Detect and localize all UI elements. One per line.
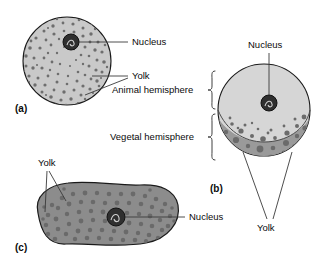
panel-c-tag: (c) (15, 242, 27, 253)
animal-hemisphere-label: Animal hemisphere (112, 84, 193, 95)
panel-b-tag: (b) (210, 183, 223, 194)
vegetal-hemisphere-brace (208, 114, 215, 160)
animal-hemisphere-brace (208, 71, 215, 109)
nucleus-label-c: Nucleus (189, 211, 224, 222)
nucleus-c (107, 208, 125, 226)
vegetal-hemisphere-label: Vegetal hemisphere (110, 131, 194, 142)
yolk-label-b: Yolk (257, 222, 275, 233)
panel-a-isolecithal-egg: Nucleus Yolk (a) (15, 17, 167, 114)
yolk-label-a: Yolk (132, 70, 150, 81)
egg-yolk-distribution-figure: Nucleus Yolk (a) (0, 0, 336, 267)
nucleus-label-b: Nucleus (248, 39, 283, 50)
yolk-b-leader-1 (243, 152, 267, 219)
nucleus-a (63, 34, 79, 50)
nucleus-b (261, 95, 277, 111)
panel-c-centrolecithal-egg: Yolk Nucleus (c) (15, 157, 224, 253)
panel-a-tag: (a) (15, 103, 27, 114)
nucleus-label-a: Nucleus (132, 36, 167, 47)
yolk-label-c: Yolk (38, 157, 56, 168)
yolk-b-leader-2 (273, 152, 292, 219)
